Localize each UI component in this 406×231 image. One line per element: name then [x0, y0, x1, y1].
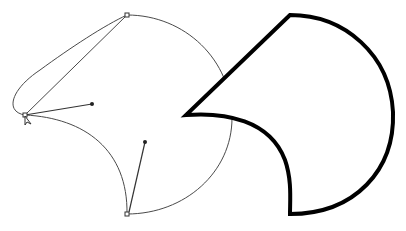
diagram-canvas	[0, 0, 406, 231]
resulting-stroked-shape[interactable]	[186, 15, 393, 214]
bottom-anchor-point[interactable]	[125, 212, 129, 216]
inner-diagonal-segment[interactable]	[25, 15, 127, 115]
concave-bottom-segment[interactable]	[25, 115, 127, 214]
direct-select-cursor-icon	[25, 116, 31, 125]
bottom-anchor-handle[interactable]	[129, 142, 145, 212]
bottom-handle-point[interactable]	[143, 140, 147, 144]
outer-loop-curve[interactable]	[13, 15, 127, 115]
top-anchor-point[interactable]	[125, 13, 129, 17]
left-handle-point[interactable]	[90, 102, 94, 106]
